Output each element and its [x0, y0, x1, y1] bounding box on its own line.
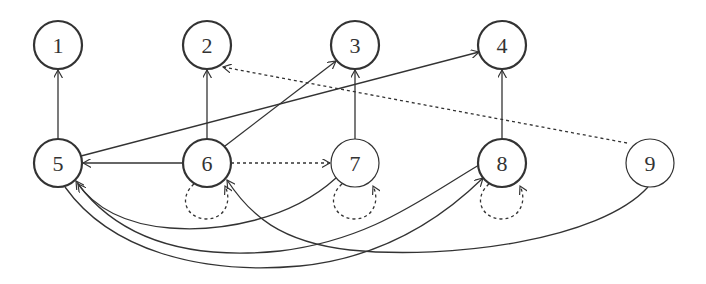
edge-7-7 — [333, 184, 375, 219]
node-3[interactable]: 3 — [331, 21, 379, 69]
node-1[interactable]: 1 — [34, 21, 82, 69]
node-7[interactable]: 7 — [331, 139, 379, 187]
node-2-label: 2 — [202, 33, 213, 58]
nodes: 1 2 3 4 5 6 7 8 — [34, 21, 674, 187]
node-9-label: 9 — [645, 151, 656, 176]
edge-6-3 — [225, 61, 336, 146]
graph-canvas: 1 2 3 4 5 6 7 8 — [0, 0, 706, 284]
node-8[interactable]: 8 — [478, 139, 526, 187]
node-9[interactable]: 9 — [626, 139, 674, 187]
node-3-label: 3 — [350, 33, 361, 58]
edge-6-6 — [185, 184, 227, 219]
edge-8-5 — [78, 165, 479, 253]
node-8-label: 8 — [497, 151, 508, 176]
edge-8-8 — [480, 184, 522, 219]
node-4-label: 4 — [497, 33, 508, 58]
edge-9-2 — [223, 67, 627, 143]
node-1-label: 1 — [53, 33, 64, 58]
node-7-label: 7 — [350, 151, 361, 176]
node-5[interactable]: 5 — [34, 139, 82, 187]
node-6[interactable]: 6 — [183, 139, 231, 187]
node-4[interactable]: 4 — [478, 21, 526, 69]
node-6-label: 6 — [202, 151, 213, 176]
node-2[interactable]: 2 — [183, 21, 231, 69]
edge-5-8 — [65, 178, 483, 268]
node-5-label: 5 — [53, 151, 64, 176]
